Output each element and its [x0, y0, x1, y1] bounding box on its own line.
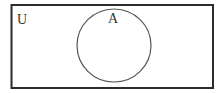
set-a-label: A: [108, 11, 119, 26]
venn-diagram: U A: [0, 0, 222, 93]
universal-set-label: U: [17, 12, 27, 27]
